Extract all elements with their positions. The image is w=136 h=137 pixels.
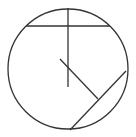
geometry-diagram xyxy=(0,0,136,137)
diagonal-segment xyxy=(60,59,98,99)
